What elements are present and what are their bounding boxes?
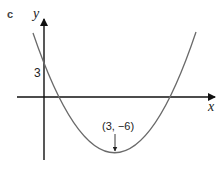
parabola-sketch: y x 3 (3, −6)	[0, 0, 224, 170]
parabola-curve	[33, 32, 196, 153]
vertex-label: (3, −6)	[102, 120, 134, 132]
y-axis-label: y	[31, 6, 40, 21]
x-axis-label: x	[207, 99, 215, 114]
y-intercept-label: 3	[34, 66, 41, 80]
